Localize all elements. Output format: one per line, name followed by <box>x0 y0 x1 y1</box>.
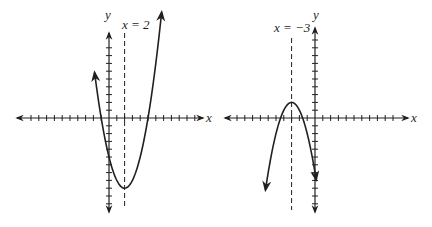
left-symmetry-label: x = 2 <box>121 17 150 32</box>
right-symmetry-label-text: x = −3 <box>273 20 311 35</box>
figure: y x x = 2 y x x = −3 <box>0 0 432 227</box>
right-symmetry-label: x = −3 <box>273 20 311 35</box>
right-graph <box>225 28 408 212</box>
left-y-axis-label: y <box>103 7 111 22</box>
right-y-axis-label: y <box>311 7 319 22</box>
parabola-curve <box>95 12 162 188</box>
left-symmetry-label-text: x = 2 <box>121 17 150 32</box>
left-x-axis-label: x <box>205 110 212 125</box>
parabola-curve <box>265 102 316 190</box>
right-x-axis-label: x <box>410 110 417 125</box>
left-graph <box>17 12 203 212</box>
